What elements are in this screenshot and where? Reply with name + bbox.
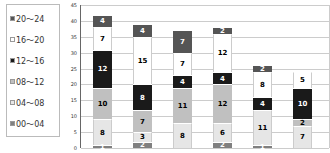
legend-swatch — [10, 16, 15, 21]
y-tick-label: 35 — [65, 34, 77, 40]
stacked-bar: 111482 — [253, 65, 272, 148]
bar-segment: 8 — [173, 123, 192, 148]
gridline — [81, 37, 329, 38]
y-tick-label: 20 — [65, 81, 77, 87]
bar-segment: 1 — [253, 145, 272, 148]
legend-label: 04〜08 — [16, 97, 44, 108]
bar-segment: 12 — [93, 50, 112, 88]
y-tick-label: 45 — [65, 2, 77, 8]
gridline — [81, 148, 329, 149]
bar-segment: 7 — [173, 53, 192, 75]
gridline — [81, 116, 329, 117]
y-tick-label: 10 — [65, 113, 77, 119]
bar-segment: 8 — [133, 84, 152, 109]
bar-segment: 1 — [93, 145, 112, 148]
y-tick-label: 0 — [65, 145, 77, 151]
legend-item: 08〜12 — [10, 76, 44, 87]
y-tick-label: 25 — [65, 66, 77, 72]
bar-segment: 8 — [93, 119, 112, 144]
gridline — [81, 5, 329, 6]
legend-swatch — [10, 121, 15, 126]
bar-segment: 4 — [253, 97, 272, 110]
legend-item: 20〜24 — [10, 13, 44, 24]
legend-swatch — [10, 79, 15, 84]
y-tick-label: 40 — [65, 18, 77, 24]
bar-segment: 7 — [133, 110, 152, 132]
y-tick-label: 5 — [65, 129, 77, 135]
bar-segment: 7 — [173, 30, 192, 52]
legend-item: 04〜08 — [10, 97, 44, 108]
bar-segment: 7 — [293, 126, 312, 148]
bar-segment: 4 — [213, 72, 232, 85]
bar-segment: 10 — [93, 88, 112, 120]
bar-segment: 2 — [133, 142, 152, 148]
bar-segment: 11 — [253, 110, 272, 145]
bar-segment: 11 — [173, 88, 192, 123]
legend-swatch — [10, 37, 15, 42]
legend-item: 00〜04 — [10, 118, 44, 129]
legend-swatch — [10, 100, 15, 105]
legend-label: 12〜16 — [16, 55, 44, 66]
legend-label: 00〜04 — [16, 118, 44, 129]
legend-swatch — [10, 58, 15, 63]
bar-segment: 4 — [93, 15, 112, 28]
legend-label: 16〜20 — [16, 34, 44, 45]
stacked-bar: 26124122 — [213, 27, 232, 148]
bar-segment: 8 — [253, 72, 272, 97]
gridline — [81, 100, 329, 101]
bar-segment: 12 — [213, 34, 232, 72]
bar-segment: 4 — [173, 75, 192, 88]
bar-segment: 5 — [293, 72, 312, 88]
stacked-bar: 18101274 — [93, 15, 112, 148]
bar-segment: 15 — [133, 37, 152, 85]
gridline — [81, 69, 329, 70]
gridline — [81, 132, 329, 133]
legend-label: 20〜24 — [16, 13, 44, 24]
legend-label: 08〜12 — [16, 76, 44, 87]
y-tick-label: 30 — [65, 50, 77, 56]
plot-area: 0510152025303540451810127423781548114772… — [80, 5, 330, 148]
bar-segment: 6 — [213, 123, 232, 142]
legend-item: 16〜20 — [10, 34, 44, 45]
stacked-bar: 72105 — [293, 72, 312, 148]
bar-segment: 10 — [293, 88, 312, 120]
bar-segment: 3 — [133, 132, 152, 142]
stacked-bar: 811477 — [173, 30, 192, 148]
bar-segment: 4 — [133, 24, 152, 37]
bar-segment: 12 — [213, 84, 232, 122]
stacked-bar: 2378154 — [133, 24, 152, 148]
bar-segment: 2 — [213, 142, 232, 148]
gridline — [81, 53, 329, 54]
legend-item: 12〜16 — [10, 55, 44, 66]
bar-segment: 7 — [93, 27, 112, 49]
gridline — [81, 84, 329, 85]
gridline — [81, 21, 329, 22]
y-tick-label: 15 — [65, 97, 77, 103]
chart-legend: 20〜2416〜2012〜1608〜1204〜0800〜04 — [6, 4, 60, 137]
